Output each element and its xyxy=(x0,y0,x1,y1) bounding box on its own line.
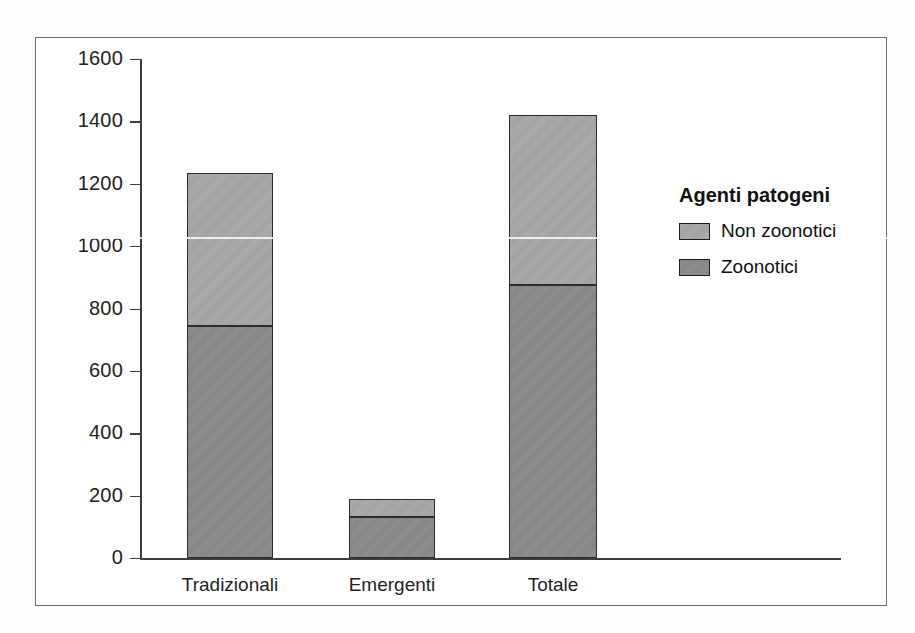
figure-container: 1600 1400 1200 1000 800 600 400 200 xyxy=(0,0,915,633)
y-tick-600: 600 xyxy=(130,371,141,372)
bar-totale[interactable]: Totale xyxy=(509,115,597,559)
legend-swatch-zoonotici-icon xyxy=(679,259,710,276)
bar-emergenti[interactable]: Emergenti xyxy=(349,499,435,558)
y-tick-1600: 1600 xyxy=(130,59,141,60)
y-tick-label-1400: 1400 xyxy=(78,109,123,131)
legend-label-non-zoonotici: Non zoonotici xyxy=(721,220,836,242)
legend: Agenti patogeni Non zoonotici Zoonotici xyxy=(679,184,879,292)
y-tick-1000: 1000 xyxy=(130,246,141,247)
bar-tradizionali-segment-non-zoonotici[interactable] xyxy=(187,173,273,326)
legend-label-zoonotici: Zoonotici xyxy=(721,256,798,278)
y-tick-label-1200: 1200 xyxy=(78,172,123,194)
y-tick-label-1600: 1600 xyxy=(78,47,123,69)
y-tick-400: 400 xyxy=(130,433,141,434)
y-tick-label-1000: 1000 xyxy=(78,234,123,256)
bar-tradizionali[interactable]: Tradizionali xyxy=(187,173,273,558)
y-tick-1200: 1200 xyxy=(130,184,141,185)
y-tick-800: 800 xyxy=(130,309,141,310)
x-axis-line xyxy=(140,558,841,560)
x-tick-label-tradizionali: Tradizionali xyxy=(182,574,278,596)
plot-area: 1600 1400 1200 1000 800 600 400 200 xyxy=(36,38,888,607)
y-tick-1400: 1400 xyxy=(130,121,141,122)
y-tick-label-800: 800 xyxy=(89,297,123,319)
bar-totale-segment-zoonotici[interactable] xyxy=(509,285,597,558)
legend-title: Agenti patogeni xyxy=(679,184,879,207)
y-tick-200: 200 xyxy=(130,496,141,497)
bar-emergenti-segment-non-zoonotici[interactable] xyxy=(349,499,435,516)
legend-item-zoonotici[interactable]: Zoonotici xyxy=(679,256,879,278)
y-tick-label-400: 400 xyxy=(89,421,123,443)
legend-item-non-zoonotici[interactable]: Non zoonotici xyxy=(679,220,879,242)
x-tick-label-emergenti: Emergenti xyxy=(349,574,436,596)
y-tick-label-600: 600 xyxy=(89,359,123,381)
y-tick-label-0: 0 xyxy=(112,546,123,568)
y-tick-0: 0 xyxy=(130,558,141,559)
bar-emergenti-segment-zoonotici[interactable] xyxy=(349,517,435,558)
legend-swatch-non-zoonotici-icon xyxy=(679,223,710,240)
bar-tradizionali-segment-zoonotici[interactable] xyxy=(187,326,273,558)
y-tick-label-200: 200 xyxy=(89,484,123,506)
bar-totale-segment-non-zoonotici[interactable] xyxy=(509,115,597,285)
chart-frame: 1600 1400 1200 1000 800 600 400 200 xyxy=(35,37,887,606)
x-tick-label-totale: Totale xyxy=(528,574,579,596)
